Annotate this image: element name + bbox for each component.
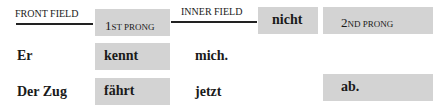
negation-word: nicht <box>272 12 302 28</box>
second-prong-header-box: 2ND PRONG <box>323 7 433 34</box>
row2-prong1-word: fährt <box>104 83 134 99</box>
first-prong-header-box: 1ST PRONG <box>95 9 170 36</box>
row2-prong1-box: fährt <box>95 78 170 105</box>
negation-box: nicht <box>258 7 318 34</box>
row1-front-word: Er <box>17 48 33 64</box>
inner-field-label: INNER FIELD <box>181 6 242 17</box>
second-prong-text: ND PRONG <box>348 19 394 29</box>
row2-prong2-box: ab. <box>323 74 433 101</box>
second-prong-label: 2ND PRONG <box>341 13 393 31</box>
row2-inner-word: jetzt <box>195 84 221 100</box>
front-field-label: FRONT FIELD <box>15 8 78 19</box>
first-prong-text: ST PRONG <box>112 22 155 32</box>
inner-field-line <box>171 21 257 23</box>
row2-front-word: Der Zug <box>17 84 67 100</box>
row2-prong2-word: ab. <box>341 79 359 95</box>
first-prong-label: 1ST PRONG <box>105 16 155 34</box>
row1-inner-word: mich. <box>195 48 228 64</box>
front-field-line <box>16 23 93 25</box>
row1-prong1-box: kennt <box>95 43 170 70</box>
row1-prong1-word: kennt <box>104 48 138 64</box>
